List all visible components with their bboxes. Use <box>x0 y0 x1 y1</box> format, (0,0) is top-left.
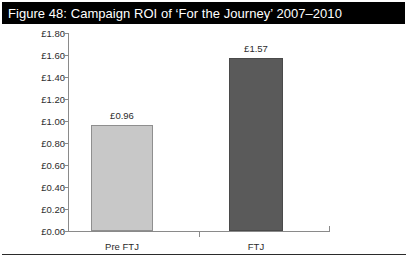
x-tick-mark-end <box>329 226 330 231</box>
x-category-label-ftj: FTJ <box>216 242 296 252</box>
y-tick-label: £0.00 <box>5 227 65 237</box>
y-tick-label: £1.00 <box>5 117 65 127</box>
y-tick-label: £1.60 <box>5 51 65 61</box>
x-tick-mark-separator <box>199 232 200 237</box>
y-tick-label: £0.20 <box>5 205 65 215</box>
y-tick-label: £0.60 <box>5 161 65 171</box>
y-tick-label: £0.40 <box>5 183 65 193</box>
x-category-label-pre-ftj: Pre FTJ <box>82 242 162 252</box>
bar-ftj[interactable] <box>229 58 283 231</box>
x-tick-mark-start <box>68 226 69 231</box>
bar-chart-plot: £1.80 £1.60 £1.40 £1.20 £1.00 £0.80 £0.6… <box>0 0 408 260</box>
y-tick-label: £1.80 <box>5 29 65 39</box>
bar-value-label-ftj: £1.57 <box>226 44 286 54</box>
y-tick-label: £0.80 <box>5 139 65 149</box>
y-axis-line <box>68 33 69 232</box>
y-tick-label: £1.20 <box>5 95 65 105</box>
bar-pre-ftj[interactable] <box>91 125 153 231</box>
figure-bottom-rule <box>2 254 406 255</box>
bar-value-label-pre-ftj: £0.96 <box>91 111 153 121</box>
figure-container: Figure 48: Campaign ROI of ‘For the Jour… <box>0 0 408 260</box>
y-tick-label: £1.40 <box>5 73 65 83</box>
